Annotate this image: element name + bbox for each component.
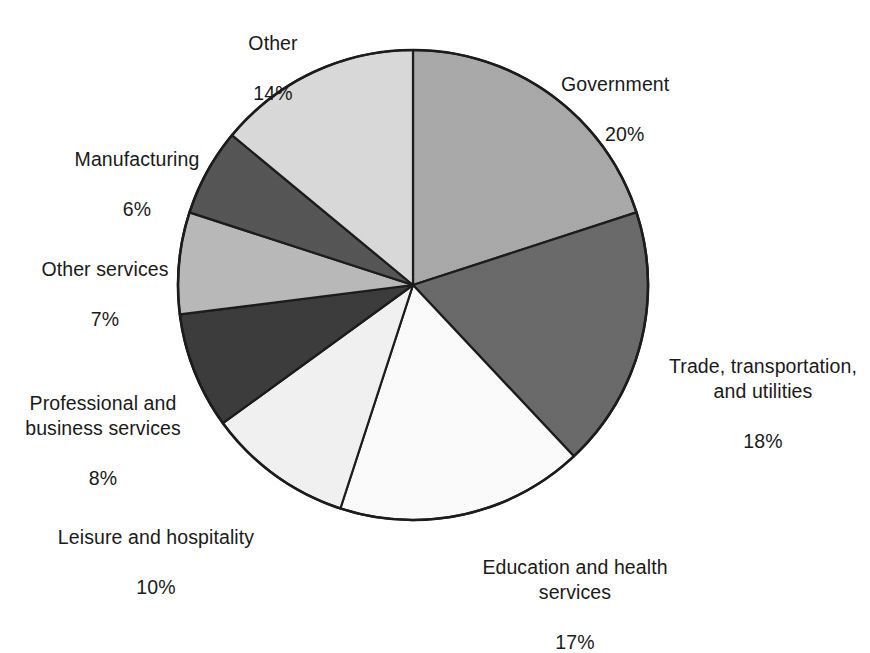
slice-label-leisure-value: 10% bbox=[29, 575, 283, 600]
slice-label-other-services: Other services 7% bbox=[17, 232, 193, 357]
slice-label-other-name: Other bbox=[183, 31, 363, 56]
slice-label-manufacturing: Manufacturing 6% bbox=[47, 122, 227, 247]
slice-label-government: Government 20% bbox=[561, 47, 821, 172]
slice-label-government-value: 20% bbox=[561, 122, 821, 147]
slice-label-manufacturing-name: Manufacturing bbox=[47, 147, 227, 172]
slice-label-trade-transportation-utilities: Trade, transportation, and utilities 18% bbox=[656, 329, 870, 479]
slice-label-professional-business-services: Professional and business services 8% bbox=[5, 366, 201, 516]
slice-label-leisure-name: Leisure and hospitality bbox=[29, 525, 283, 550]
slice-label-professional-value: 8% bbox=[5, 466, 201, 491]
slice-label-education-value: 17% bbox=[460, 630, 690, 653]
slice-label-government-name: Government bbox=[561, 72, 821, 97]
slice-label-education-name: Education and health services bbox=[460, 555, 690, 605]
slice-label-trade-value: 18% bbox=[656, 429, 870, 454]
slice-label-other-services-value: 7% bbox=[17, 307, 193, 332]
slice-label-education-health-services: Education and health services 17% bbox=[460, 530, 690, 653]
slice-label-professional-name: Professional and business services bbox=[5, 391, 201, 441]
slice-label-other-value: 14% bbox=[183, 81, 363, 106]
slice-label-other: Other 14% bbox=[183, 6, 363, 131]
slice-label-leisure-hospitality: Leisure and hospitality 10% bbox=[29, 500, 283, 625]
slice-label-trade-name: Trade, transportation, and utilities bbox=[656, 354, 870, 404]
slice-label-other-services-name: Other services bbox=[17, 257, 193, 282]
slice-label-manufacturing-value: 6% bbox=[47, 197, 227, 222]
